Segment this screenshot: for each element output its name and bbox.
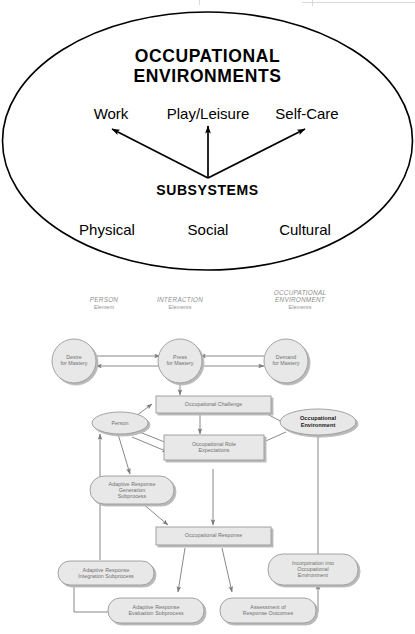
- subsystem-cultural: Cultural: [240, 221, 370, 238]
- node-assessment-of-response-outcomes: [220, 598, 316, 623]
- node-occupational-role-expectations: [164, 435, 264, 460]
- node-person: [92, 412, 148, 434]
- column-heading-interaction: INTERACTION Elements: [130, 296, 230, 310]
- column-heading-occupational-environment: OCCUPATIONAL ENVIRONMENT Elements: [252, 289, 348, 310]
- arrow-to-self-care: [208, 129, 305, 178]
- arrow-generation-to-response: [142, 503, 168, 525]
- column-heading-occupational-environment-subtitle: Elements: [252, 304, 348, 310]
- arrow-response-to-assessment: [222, 548, 232, 592]
- node-adaptive-response-evaluation: [108, 598, 204, 623]
- occupational-adaptation-process-figure: PERSON Element INTERACTION Elements OCCU…: [0, 282, 415, 634]
- node-adaptive-response-generation: [90, 476, 174, 504]
- figure-title-line1: OCCUPATIONAL: [0, 46, 415, 66]
- figure-page: OCCUPATIONAL ENVIRONMENTS Work Play/Leis…: [0, 0, 415, 634]
- node-desire-for-mastery: [52, 339, 96, 383]
- node-occupational-challenge: [156, 396, 271, 413]
- column-heading-interaction-title: INTERACTION: [130, 296, 230, 303]
- arrow-response-to-evaluation: [178, 548, 185, 592]
- node-occupational-response: [156, 527, 271, 545]
- node-press-for-mastery: [158, 339, 202, 383]
- node-adaptive-response-integration: [58, 561, 154, 585]
- subsystems-heading: SUBSYSTEMS: [0, 182, 415, 198]
- node-incorporation-into-environment: [268, 554, 358, 585]
- column-heading-interaction-subtitle: Elements: [130, 304, 230, 310]
- arrow-person-to-role-expectations: [132, 437, 168, 452]
- arrow-to-work: [112, 129, 208, 178]
- occupation-self-care: Self-Care: [242, 105, 372, 122]
- occupational-environments-figure: OCCUPATIONAL ENVIRONMENTS Work Play/Leis…: [0, 0, 415, 282]
- arrow-person-to-generation: [118, 434, 130, 474]
- node-occupational-environment: [280, 409, 356, 435]
- node-demand-for-mastery: [264, 339, 308, 383]
- figure-title-line2: ENVIRONMENTS: [0, 66, 415, 86]
- column-heading-occupational-environment-title: OCCUPATIONAL ENVIRONMENT: [252, 289, 348, 304]
